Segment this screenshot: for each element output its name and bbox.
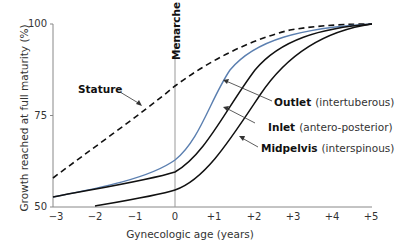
x-tick: 0 (172, 211, 178, 222)
x-tick: −2 (88, 211, 103, 222)
series-inlet (53, 24, 372, 197)
menarche-label: Menarche (170, 2, 182, 60)
y-axis-label: Growth reached at full maturity (%) (18, 24, 30, 211)
x-tick: +1 (207, 211, 222, 222)
x-tick: −1 (128, 211, 143, 222)
midpelvis-label: Midpelvis(interspinous) (261, 142, 394, 154)
inlet-label: Inlet(antero-posterior) (268, 121, 393, 133)
y-tick-50: 50 (34, 201, 47, 212)
x-tick: +5 (364, 211, 379, 222)
series-outlet (53, 24, 372, 197)
x-axis-label: Gynecologic age (years) (126, 228, 254, 240)
y-tick-100: 100 (28, 18, 47, 29)
x-tick: +3 (286, 211, 301, 222)
outlet-label: Outlet(intertuberous) (274, 96, 394, 108)
x-tick: +2 (247, 211, 262, 222)
stature-label: Stature (78, 83, 122, 95)
x-tick: +4 (325, 211, 340, 222)
pelvic-growth-chart: Menarche 100 75 50 −3 −2 −1 0 +1 +2 +3 +… (0, 0, 399, 248)
x-tick: −3 (49, 211, 64, 222)
y-tick-75: 75 (34, 110, 47, 121)
